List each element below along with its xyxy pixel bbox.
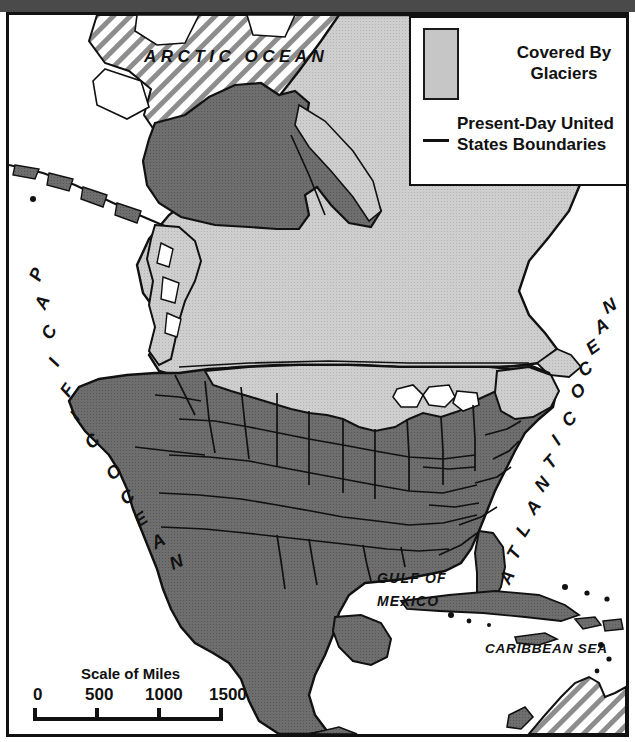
scale-ruler [33, 708, 223, 722]
map-legend: Covered By Glaciers Present-Day United S… [409, 16, 629, 186]
map-page: Covered By Glaciers Present-Day United S… [0, 0, 635, 742]
legend-boundary-line2: States Boundaries [457, 135, 625, 156]
legend-entry-glaciers: Covered By Glaciers [423, 28, 629, 100]
legend-boundary-label: Present-Day United States Boundaries [457, 114, 625, 155]
legend-entry-boundaries: Present-Day United States Boundaries [423, 114, 625, 155]
scale-bar: Scale of Miles 050010001500 [33, 665, 253, 722]
scale-tick-labels: 050010001500 [33, 685, 253, 707]
top-dark-band [0, 0, 635, 12]
scale-tick-1 [95, 708, 99, 721]
boundary-line-swatch [423, 139, 449, 142]
scale-tick-label-2: 1000 [145, 685, 183, 705]
legend-glacier-line1: Covered By [489, 43, 629, 64]
legend-glacier-line2: Glaciers [489, 64, 629, 85]
map-frame: Covered By Glaciers Present-Day United S… [6, 12, 629, 737]
scale-tick-label-0: 0 [33, 685, 42, 705]
scale-tick-label-3: 1500 [209, 685, 247, 705]
scale-tick-0 [33, 708, 37, 721]
scale-tick-3 [219, 708, 223, 721]
scale-tick-2 [157, 708, 161, 721]
legend-boundary-line1: Present-Day United [457, 114, 625, 135]
glacier-swatch [423, 28, 459, 100]
scale-tick-label-1: 500 [85, 685, 113, 705]
scale-ruler-bar [33, 717, 223, 721]
scale-title: Scale of Miles [81, 665, 253, 682]
legend-glacier-label: Covered By Glaciers [489, 43, 629, 84]
